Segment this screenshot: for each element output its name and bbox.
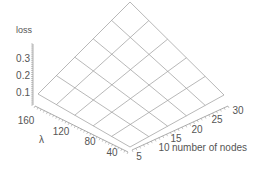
surface-plot: 0.3 0.2 0.1 loss 160 120 80 40 λ 5 10 15… bbox=[0, 0, 253, 172]
axis-tick bbox=[34, 106, 35, 108]
axis-tick bbox=[167, 134, 168, 136]
lambda-axis-label: λ bbox=[39, 134, 44, 145]
axis-tick bbox=[81, 129, 82, 131]
axis-tick bbox=[132, 150, 133, 152]
z-axis-label: loss bbox=[16, 25, 33, 35]
z-tick-label: 0.1 bbox=[16, 87, 30, 98]
axis-tick bbox=[159, 138, 160, 140]
mesh-line bbox=[56, 76, 148, 137]
nodes-tick-label: 30 bbox=[232, 105, 244, 116]
axis-tick bbox=[197, 120, 198, 122]
axis-tick bbox=[53, 115, 54, 117]
mesh-line bbox=[93, 39, 186, 116]
axis-tick bbox=[96, 137, 97, 139]
axis-tick bbox=[40, 109, 41, 111]
mesh-line bbox=[93, 58, 186, 126]
axis-tick bbox=[118, 147, 119, 149]
lambda-tick-label: 120 bbox=[53, 126, 70, 137]
axis-tick bbox=[144, 145, 145, 147]
axis-tick bbox=[147, 143, 148, 145]
axis-tick bbox=[201, 118, 202, 120]
axis-tick bbox=[190, 124, 191, 126]
z-axis: 0.3 0.2 0.1 loss bbox=[16, 25, 33, 105]
axis-tick bbox=[50, 114, 51, 116]
axis-tick bbox=[220, 110, 221, 112]
axis-tick bbox=[65, 121, 66, 123]
axis-tick bbox=[102, 140, 103, 142]
mesh-line bbox=[38, 2, 130, 94]
axis-tick bbox=[99, 138, 100, 140]
axis-tick bbox=[163, 136, 164, 138]
axis-tick bbox=[37, 108, 38, 110]
axis-tick bbox=[87, 132, 88, 134]
axis-tick bbox=[155, 139, 156, 141]
axis-tick bbox=[127, 152, 128, 154]
axis-tick bbox=[216, 111, 217, 113]
nodes-tick-label: 25 bbox=[211, 114, 223, 125]
axis-tick bbox=[124, 150, 125, 152]
axis-tick bbox=[151, 141, 152, 143]
axis-tick bbox=[186, 125, 187, 127]
axis-tick bbox=[43, 111, 44, 113]
mesh-line bbox=[75, 39, 168, 115]
nodes-tick-label: 5 bbox=[136, 151, 142, 162]
mesh-line bbox=[75, 57, 168, 126]
axis-tick bbox=[105, 141, 106, 143]
axis-tick bbox=[182, 127, 183, 129]
axis-tick bbox=[46, 112, 47, 114]
axis-tick bbox=[178, 129, 179, 131]
axis-tick bbox=[228, 106, 229, 108]
z-tick-label: 0.3 bbox=[16, 53, 30, 64]
axis-tick bbox=[209, 115, 210, 117]
axis-tick bbox=[56, 117, 57, 119]
nodes-axis-label: number of nodes bbox=[172, 142, 247, 153]
nodes-tick-label: 10 bbox=[158, 142, 170, 153]
axis-tick bbox=[84, 131, 85, 133]
axis-tick bbox=[224, 108, 225, 110]
nodes-tick-label: 20 bbox=[191, 124, 203, 135]
axis-tick bbox=[59, 118, 60, 120]
axis-tick bbox=[68, 123, 69, 125]
axis-tick bbox=[71, 124, 72, 126]
axis-tick bbox=[205, 117, 206, 119]
lambda-tick-label: 80 bbox=[84, 136, 96, 147]
axis-tick bbox=[74, 126, 75, 128]
axis-tick bbox=[136, 148, 137, 150]
z-tick-label: 0.2 bbox=[16, 70, 30, 81]
lambda-tick-label: 160 bbox=[18, 115, 35, 126]
axis-tick bbox=[121, 149, 122, 151]
axis-tick bbox=[140, 146, 141, 148]
axis-tick bbox=[108, 143, 109, 145]
axis-tick bbox=[62, 120, 63, 122]
lambda-tick-label: 40 bbox=[106, 147, 118, 158]
axis-tick bbox=[77, 127, 78, 129]
nodes-axis: 5 10 15 20 25 30 number of nodes bbox=[132, 105, 247, 162]
